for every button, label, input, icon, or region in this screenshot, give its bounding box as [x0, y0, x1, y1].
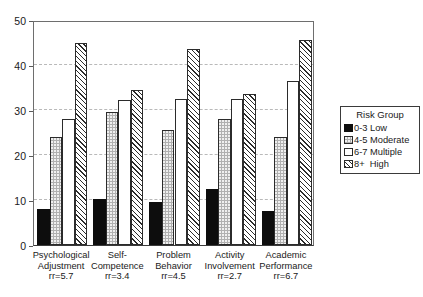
legend-label: 4-5 Moderate	[354, 134, 409, 146]
bar-moderate	[218, 119, 231, 245]
legend-swatch-moderate	[344, 136, 353, 144]
legend-swatch-low	[344, 124, 353, 132]
legend-item: 0-3 Low	[344, 122, 416, 134]
bar-high	[243, 94, 256, 245]
bar-moderate	[106, 112, 119, 245]
legend-item: 6-7 Multiple	[344, 146, 416, 158]
x-group-label: Academic Performance rr=6.7	[250, 250, 322, 282]
bar-low	[37, 209, 50, 245]
legend-label: 0-3 Low	[354, 122, 387, 134]
legend-swatch-high	[344, 160, 353, 168]
bar-high	[187, 49, 200, 245]
y-tick-label: 30	[4, 106, 26, 117]
y-tick-label: 40	[4, 61, 26, 72]
y-tick-label: 50	[4, 16, 26, 27]
legend-items: 0-3 Low4-5 Moderate6-7 Multiple8+ High	[344, 122, 416, 170]
bar-multiple	[287, 81, 300, 245]
y-tick-label: 0	[4, 241, 26, 252]
legend-item: 8+ High	[344, 158, 416, 170]
bar-low	[206, 189, 219, 245]
y-tick-label: 20	[4, 151, 26, 162]
bar-moderate	[274, 137, 287, 245]
bar-moderate	[162, 130, 175, 245]
chart-legend: Risk Group 0-3 Low4-5 Moderate6-7 Multip…	[340, 106, 420, 174]
bar-multiple	[231, 99, 244, 245]
bar-high	[131, 90, 144, 245]
bar-high	[75, 43, 88, 246]
y-tick-mark	[29, 246, 33, 247]
bar-low	[262, 211, 275, 245]
bar-low	[93, 199, 106, 245]
legend-item: 4-5 Moderate	[344, 134, 416, 146]
legend-swatch-multiple	[344, 148, 353, 156]
bar-high	[299, 40, 312, 245]
bar-multiple	[118, 100, 131, 245]
bar-low	[149, 202, 162, 245]
bar-multiple	[62, 119, 75, 245]
legend-title: Risk Group	[344, 109, 416, 120]
y-tick-label: 10	[4, 196, 26, 207]
bar-moderate	[50, 137, 63, 245]
bar-chart: 01020304050 Psychological Adjustment rr=…	[0, 0, 423, 297]
plot-area	[33, 21, 314, 246]
legend-label: 8+ High	[354, 158, 389, 170]
bar-multiple	[175, 99, 188, 245]
legend-label: 6-7 Multiple	[354, 146, 402, 158]
